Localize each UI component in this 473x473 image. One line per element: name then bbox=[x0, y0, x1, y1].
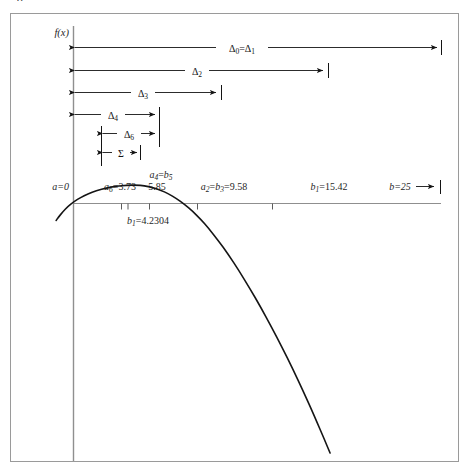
figure-root: 8 f(x) Δ0=Δ1 bbox=[0, 0, 473, 473]
interval-label-sigma: Σ bbox=[118, 148, 124, 159]
axis-label-b: b=25 bbox=[389, 181, 411, 192]
axis-label-a: a=0 bbox=[52, 181, 69, 192]
figure-frame bbox=[11, 14, 459, 462]
figure-canvas: f(x) Δ0=Δ1 Δ2 Δ3 Δ4 bbox=[0, 0, 473, 473]
figure-number-label: 8 bbox=[17, 0, 47, 1]
y-axis-label: f(x) bbox=[54, 27, 69, 39]
